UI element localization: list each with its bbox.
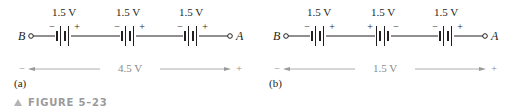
- battery-voltage-label: 1.5 V: [426, 6, 466, 18]
- arrow-left-icon: [283, 67, 290, 71]
- polarity-plus: +: [74, 21, 80, 32]
- polarity-plus: +: [329, 21, 335, 32]
- polarity-minus: −: [177, 21, 183, 32]
- total-minus: −: [19, 63, 25, 74]
- figure-caption: FIGURE 5–23: [14, 97, 108, 108]
- node-a-label: A: [491, 29, 498, 44]
- node-b-label: B: [18, 29, 25, 44]
- polarity-minus: −: [49, 21, 55, 32]
- battery-voltage-label: 1.5 V: [44, 6, 84, 18]
- polarity-minus: −: [432, 21, 438, 32]
- battery-voltage-label: 1.5 V: [363, 6, 403, 18]
- total-plus: +: [236, 63, 242, 74]
- polarity-minus: −: [304, 21, 310, 32]
- battery-icon: [311, 26, 324, 46]
- node-b-label: B: [273, 29, 280, 44]
- triangle-icon: [14, 99, 22, 106]
- battery-reversed-icon: [376, 26, 389, 46]
- polarity-plus: +: [139, 21, 145, 32]
- battery-icon: [439, 26, 452, 46]
- figure-caption-text: FIGURE 5–23: [28, 97, 108, 108]
- arrow-right-icon: [224, 67, 231, 71]
- arrow-right-icon: [479, 67, 486, 71]
- total-minus: −: [274, 63, 280, 74]
- total-plus: +: [491, 63, 497, 74]
- terminal-b-icon: [284, 34, 289, 39]
- battery-icon: [121, 26, 134, 46]
- total-voltage-label: 1.5 V: [355, 62, 415, 74]
- panel-a: − + − + − + − + 1.5 V 1.5 V 1.5 V B A 4.…: [0, 0, 254, 95]
- polarity-plus: +: [457, 21, 463, 32]
- polarity-minus: −: [114, 21, 120, 32]
- battery-voltage-label: 1.5 V: [108, 6, 148, 18]
- terminal-a-icon: [228, 34, 233, 39]
- panel-b: − + + − − + − + 1.5 V 1.5 V 1.5 V B A 1.…: [255, 0, 509, 95]
- polarity-plus: +: [202, 21, 208, 32]
- polarity-plus: +: [367, 21, 373, 32]
- polarity-minus: −: [393, 21, 399, 32]
- panel-a-label: (a): [14, 77, 26, 89]
- battery-voltage-label: 1.5 V: [299, 6, 339, 18]
- terminal-b-icon: [29, 34, 34, 39]
- battery-voltage-label: 1.5 V: [171, 6, 211, 18]
- node-a-label: A: [236, 29, 243, 44]
- total-voltage-label: 4.5 V: [100, 62, 160, 74]
- terminal-a-icon: [483, 34, 488, 39]
- battery-icon: [56, 26, 69, 46]
- arrow-left-icon: [28, 67, 35, 71]
- panel-b-label: (b): [269, 77, 282, 89]
- battery-icon: [184, 26, 197, 46]
